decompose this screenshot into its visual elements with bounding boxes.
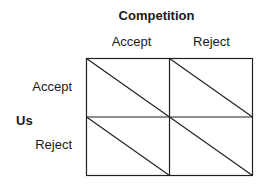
cell-diagonal-accept-reject	[170, 59, 253, 118]
cell-diagonal-accept-accept	[87, 59, 170, 118]
cell-diagonal-reject-accept	[87, 117, 170, 176]
cell-diagonal-reject-reject	[170, 117, 253, 176]
payoff-matrix-grid	[0, 0, 271, 185]
